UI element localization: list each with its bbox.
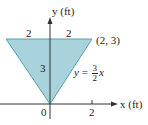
line-equation: y = 3 2 x bbox=[74, 64, 104, 83]
x-tick-label: 2 bbox=[89, 107, 95, 118]
equation-fraction: 3 2 bbox=[92, 64, 99, 83]
equation-lhs: y bbox=[74, 66, 79, 78]
y-axis-label: y (ft) bbox=[52, 6, 74, 17]
fraction-denominator: 2 bbox=[93, 74, 98, 83]
x-axis-arrow-icon bbox=[111, 102, 118, 107]
x-axis-label: x (ft) bbox=[120, 99, 142, 110]
corner-point-label: (2, 3) bbox=[96, 35, 120, 46]
top-left-width-label: 2 bbox=[26, 28, 32, 39]
top-right-width-label: 2 bbox=[66, 28, 72, 39]
height-label: 3 bbox=[40, 63, 46, 74]
equation-variable: x bbox=[99, 66, 104, 78]
equation-equals: = bbox=[82, 66, 88, 78]
y-axis-arrow-icon bbox=[48, 17, 53, 24]
origin-label: 0 bbox=[41, 107, 47, 118]
